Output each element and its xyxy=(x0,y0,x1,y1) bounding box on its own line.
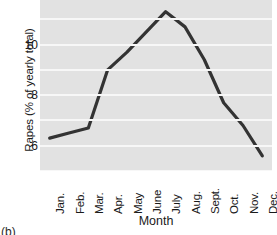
series-line xyxy=(50,12,263,156)
x-tick-label-aug: Aug. xyxy=(190,191,202,214)
plot-area xyxy=(40,0,272,171)
x-tick-mark-7 xyxy=(184,171,186,177)
x-tick-label-mar: Mar. xyxy=(93,192,105,214)
x-tick-label-jan: Jan. xyxy=(54,193,66,214)
gridline-10 xyxy=(40,44,272,46)
x-tick-label-nov: Nov. xyxy=(248,192,260,214)
gridline-6 xyxy=(40,145,272,147)
x-axis-label: Month xyxy=(40,214,272,228)
gridline-minor-7 xyxy=(40,119,272,121)
x-tick-mark-11 xyxy=(261,171,263,177)
x-tick-label-apr: Apr. xyxy=(112,194,124,214)
y-tick-label-6: 6 xyxy=(10,140,38,152)
x-tick-label-dec: Dec. xyxy=(267,191,277,214)
x-tick-mark-9 xyxy=(223,171,225,177)
x-tick-label-may: May xyxy=(132,193,144,214)
x-tick-mark-1 xyxy=(68,171,70,177)
y-tick-label-8: 8 xyxy=(10,89,38,101)
x-tick-mark-5 xyxy=(145,171,147,177)
figure-caption-fragment: (b) xyxy=(1,225,16,235)
x-tick-mark-4 xyxy=(126,171,128,177)
x-tick-label-oct: Oct. xyxy=(228,194,240,214)
x-tick-label-june: June xyxy=(151,190,163,214)
x-tick-label-sept: Sept. xyxy=(209,188,221,214)
gridline-minor-9 xyxy=(40,69,272,71)
gridline-minor-11 xyxy=(40,18,272,20)
x-axis-tick-marks xyxy=(40,171,272,178)
x-tick-mark-8 xyxy=(203,171,205,177)
y-axis-tick-labels: 681012 xyxy=(8,0,38,235)
x-tick-mark-10 xyxy=(242,171,244,177)
y-tick-label-10: 10 xyxy=(10,39,38,51)
x-tick-mark-2 xyxy=(87,171,89,177)
x-tick-label-july: July xyxy=(170,194,182,214)
x-tick-mark-0 xyxy=(49,171,51,177)
x-axis-tick-labels: Jan.Feb.Mar.Apr.MayJuneJulyAug.Sept.Oct.… xyxy=(40,178,272,218)
chart-figure: Rapes (% of yearly total) 681012 Jan.Feb… xyxy=(0,0,277,235)
x-tick-mark-3 xyxy=(107,171,109,177)
x-tick-mark-6 xyxy=(165,171,167,177)
x-tick-label-feb: Feb. xyxy=(74,192,86,214)
gridline-8 xyxy=(40,94,272,96)
